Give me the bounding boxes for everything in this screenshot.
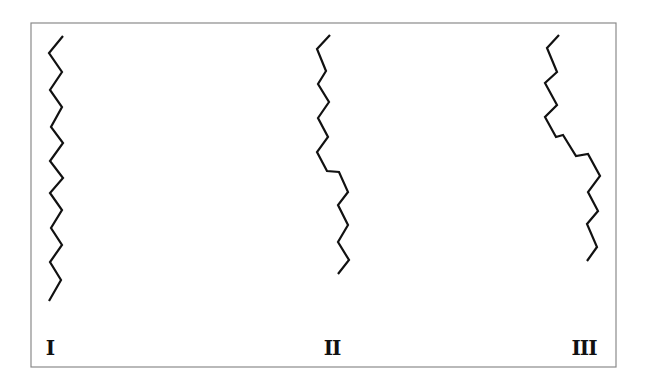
zigzag-chain-i: [49, 36, 63, 301]
label-i: I: [46, 338, 54, 358]
chain-conformation-diagram: [0, 0, 647, 385]
zigzag-chain-ii: [317, 35, 349, 274]
label-ii: II: [324, 338, 341, 358]
zigzag-chain-iii: [545, 35, 600, 261]
label-iii: III: [571, 338, 596, 358]
